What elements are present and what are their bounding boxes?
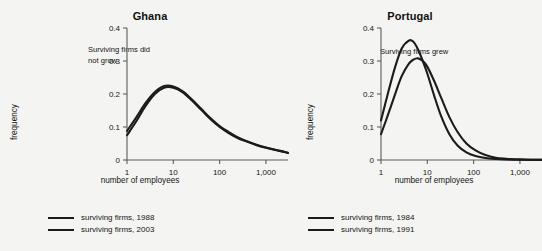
plot-svg-ghana: 00.10.20.30.41101001,000	[0, 0, 264, 200]
svg-text:0.4: 0.4	[109, 24, 121, 33]
svg-text:0: 0	[116, 156, 121, 165]
x-axis-label-portugal: number of employees	[364, 176, 504, 185]
legend-swatch-line	[308, 229, 334, 231]
svg-text:0.3: 0.3	[363, 57, 375, 66]
svg-text:0.2: 0.2	[363, 90, 375, 99]
plot-svg-portugal: 00.10.20.30.41101001,000	[264, 0, 528, 200]
svg-text:0: 0	[370, 156, 375, 165]
legend-ghana: surviving firms, 1988 surviving firms, 2…	[0, 213, 264, 237]
legend-item: surviving firms, 1991	[264, 225, 528, 234]
svg-text:1,000: 1,000	[510, 168, 531, 177]
legend-label: surviving firms, 1984	[341, 213, 414, 222]
legend-item: surviving firms, 2003	[0, 225, 264, 234]
legend-label: surviving firms, 2003	[81, 225, 154, 234]
legend-item: surviving firms, 1984	[264, 213, 528, 222]
svg-text:0.1: 0.1	[363, 123, 375, 132]
svg-text:100: 100	[213, 168, 227, 177]
x-axis-label-ghana: number of employees	[70, 176, 210, 185]
legend-swatch-line	[48, 217, 74, 219]
legend-swatch-line	[48, 229, 74, 231]
svg-text:0.4: 0.4	[363, 24, 375, 33]
chart-panel-portugal: Portugal Surviving firms grew frequency …	[264, 0, 528, 251]
legend-portugal: surviving firms, 1984 surviving firms, 1…	[264, 213, 528, 237]
plot-area-ghana: 00.10.20.30.41101001,000	[0, 0, 264, 200]
legend-label: surviving firms, 1988	[81, 213, 154, 222]
plot-area-portugal: 00.10.20.30.41101001,000	[264, 0, 528, 200]
legend-item: surviving firms, 1988	[0, 213, 264, 222]
chart-panel-ghana: Ghana Surviving firms did not grow frequ…	[0, 0, 264, 251]
legend-swatch-line	[308, 217, 334, 219]
svg-text:0.1: 0.1	[109, 123, 121, 132]
legend-label: surviving firms, 1991	[341, 225, 414, 234]
svg-text:0.2: 0.2	[109, 90, 121, 99]
svg-text:0.3: 0.3	[109, 57, 121, 66]
